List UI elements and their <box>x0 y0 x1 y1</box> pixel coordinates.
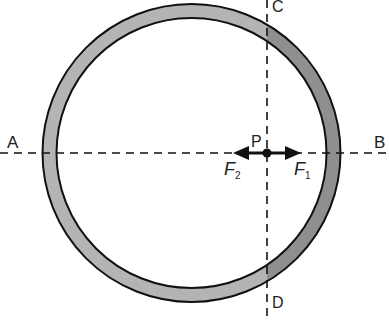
label-p: P <box>251 133 262 150</box>
ring <box>0 0 389 328</box>
label-b: B <box>374 133 385 152</box>
label-f2-subscript: 2 <box>235 170 241 181</box>
label-d: D <box>272 294 284 311</box>
label-f1-subscript: 1 <box>305 170 311 181</box>
label-a: A <box>7 133 19 152</box>
ring-force-diagram: A B C D P F 1 F 2 <box>0 0 389 328</box>
label-c: C <box>272 0 284 15</box>
point-p-dot <box>263 149 272 158</box>
